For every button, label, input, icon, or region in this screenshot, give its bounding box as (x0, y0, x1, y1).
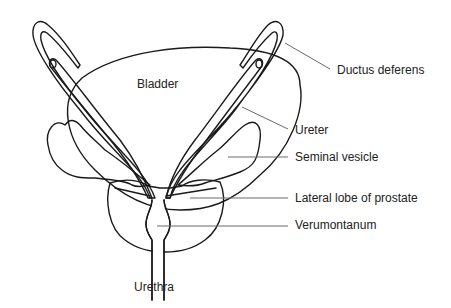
label-seminal-vesicle: Seminal vesicle (295, 150, 378, 164)
seminal-vesicle-right (178, 122, 260, 186)
label-bladder: Bladder (137, 77, 178, 91)
label-ureter: Ureter (295, 123, 328, 137)
label-ductus-deferens: Ductus deferens (337, 63, 424, 77)
label-verumontanum: Verumontanum (295, 218, 376, 232)
seminal-vesicle-left (47, 120, 150, 186)
leader-ureter (242, 107, 288, 129)
ureter-right (166, 59, 263, 198)
anatomy-diagram (0, 0, 451, 308)
label-urethra: Urethra (134, 280, 174, 294)
label-lateral-lobe: Lateral lobe of prostate (295, 191, 418, 205)
ductus-deferens-left (33, 22, 155, 198)
